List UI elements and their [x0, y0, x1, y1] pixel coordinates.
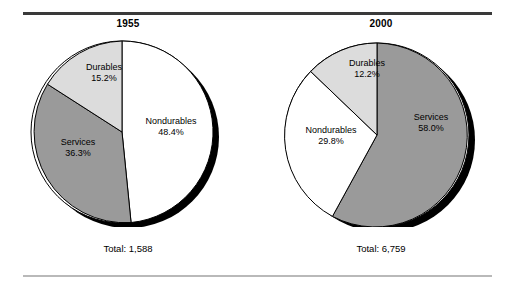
chart-panel-2000: 2000 Durables 12.2% Nondurables 29.	[256, 18, 506, 273]
pie-label-services-1955: Services 36.3%	[40, 137, 116, 159]
pie-label-nondurables-name-2000: Nondurables	[288, 125, 374, 136]
pie-label-durables-pct-2000: 12.2%	[328, 69, 406, 80]
chart-title-2000: 2000	[256, 18, 506, 29]
pie-wrap-2000: Durables 12.2% Nondurables 29.8% Service…	[256, 31, 506, 227]
pie-label-durables-name-1955: Durables	[65, 62, 143, 73]
pie-label-nondurables-1955: Nondurables 48.4%	[129, 116, 213, 138]
chart-total-1955: Total: 1,588	[3, 243, 253, 254]
pie-label-nondurables-name-1955: Nondurables	[129, 116, 213, 127]
pie-label-services-pct-2000: 58.0%	[393, 123, 469, 134]
pie-label-durables-name-2000: Durables	[328, 58, 406, 69]
pie-label-durables-pct-1955: 15.2%	[65, 73, 143, 84]
chart-total-2000: Total: 6,759	[256, 243, 506, 254]
pie-label-services-name-2000: Services	[393, 112, 469, 123]
top-divider-rule	[23, 12, 492, 15]
pie-label-durables-2000: Durables 12.2%	[328, 58, 406, 80]
pie-label-nondurables-pct-2000: 29.8%	[288, 136, 374, 147]
pie-label-services-2000: Services 58.0%	[393, 112, 469, 134]
bottom-divider-rule	[23, 275, 492, 277]
pie-svg-1955	[3, 31, 253, 227]
pie-chart-figure: 1955 Durables 15.2% Services 36.3%	[0, 0, 509, 290]
chart-title-1955: 1955	[3, 18, 253, 29]
pie-label-durables-1955: Durables 15.2%	[65, 62, 143, 84]
pie-label-services-name-1955: Services	[40, 137, 116, 148]
pie-label-nondurables-pct-1955: 48.4%	[129, 127, 213, 138]
pie-label-services-pct-1955: 36.3%	[40, 148, 116, 159]
pie-wrap-1955: Durables 15.2% Services 36.3% Nondurable…	[3, 31, 253, 227]
chart-panel-1955: 1955 Durables 15.2% Services 36.3%	[3, 18, 253, 273]
pie-label-nondurables-2000: Nondurables 29.8%	[288, 125, 374, 147]
